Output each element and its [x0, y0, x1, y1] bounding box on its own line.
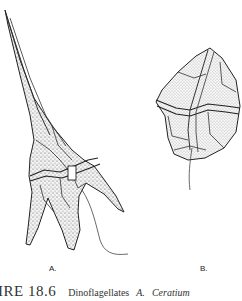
- panel-label-b: B.: [200, 264, 208, 273]
- ceratium-drawing: [5, 10, 128, 254]
- caption-genus-a: Ceratium: [152, 287, 190, 298]
- caption-text: Dinoflagellates: [68, 287, 129, 298]
- figure-caption: IRE 18.6 Dinoflagellates A. Ceratium: [0, 282, 190, 300]
- caption-part-a: A.: [136, 287, 145, 298]
- dinoflagellate-figure: A. B. IRE 18.6 Dinoflagellates A. Cerati…: [0, 0, 242, 301]
- peridinium-drawing: [156, 48, 240, 190]
- panel-label-a: A.: [49, 264, 57, 273]
- illustration: [0, 0, 242, 301]
- caption-number: IRE 18.6: [0, 283, 56, 299]
